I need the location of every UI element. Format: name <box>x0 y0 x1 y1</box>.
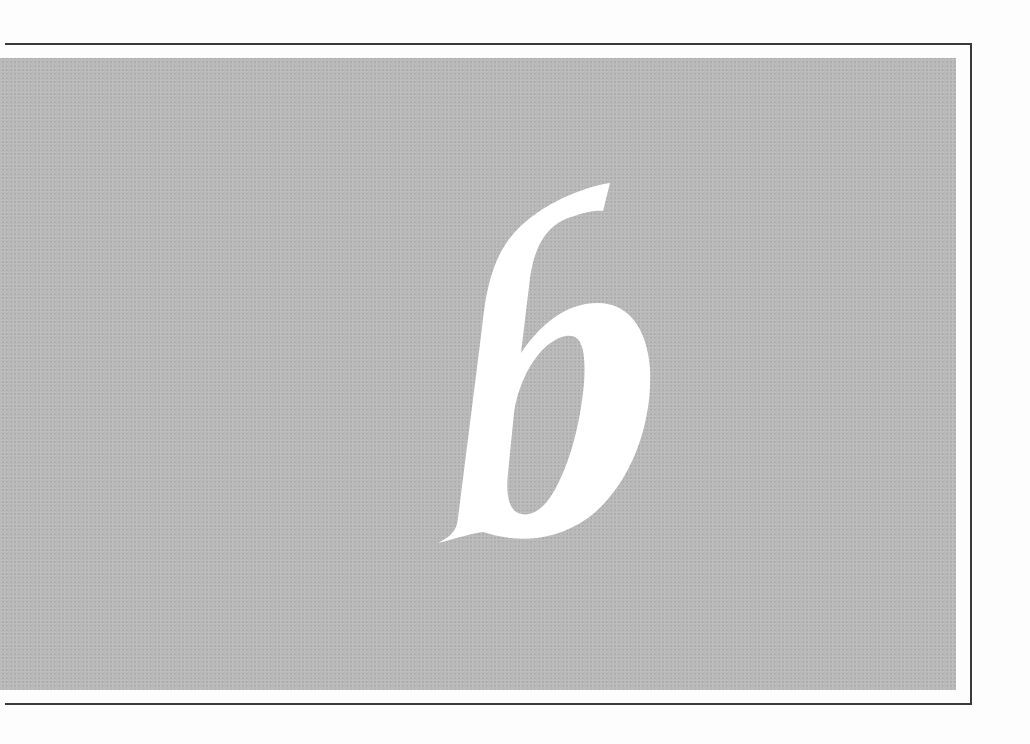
frame-bottom-rule <box>5 703 972 705</box>
frame-right-rule <box>970 43 972 705</box>
chapter-opener-page: 6 <box>0 0 1030 744</box>
frame-top-rule <box>5 43 971 45</box>
